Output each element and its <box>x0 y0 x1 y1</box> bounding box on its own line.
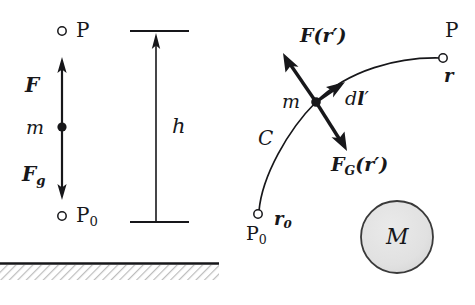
displacement-label: dl′ <box>345 89 369 108</box>
height-label: h <box>172 116 186 137</box>
displacement-arrow <box>316 82 345 102</box>
physics-figure: P P0 F Fg m h F(r′) FG(r′) dl′ m C P0 r0… <box>0 0 475 305</box>
force-applied-label-left: F <box>25 75 39 95</box>
point-p0-label-left: P0 <box>76 205 98 228</box>
mass-sphere-label: M <box>386 226 409 248</box>
path-curve-c <box>259 58 440 211</box>
point-p-label-right: P <box>445 20 458 40</box>
point-p0-marker-right <box>254 210 262 218</box>
point-p0-marker-left <box>58 212 66 220</box>
mass-label-right: m <box>282 92 300 111</box>
path-label-c: C <box>258 128 273 148</box>
ground-surface <box>0 264 219 281</box>
point-p-label-left: P <box>76 20 89 40</box>
mass-label-left: m <box>26 118 44 137</box>
point-p-marker-right <box>439 54 447 62</box>
figure-canvas <box>0 0 475 305</box>
point-p-marker-left <box>58 27 66 35</box>
mass-point-marker-right <box>311 97 321 107</box>
force-gravity-arrow <box>316 102 347 151</box>
mass-point-marker-left <box>57 122 66 131</box>
force-applied-label-right: F(r′) <box>300 26 347 45</box>
force-gravity-label-left: Fg <box>22 164 45 187</box>
point-p0-label-right: P0 <box>246 224 267 246</box>
force-gravity-label-right: FG(r′) <box>331 155 388 177</box>
vector-r-label: r <box>444 67 453 85</box>
vector-r0-label: r0 <box>274 210 292 231</box>
